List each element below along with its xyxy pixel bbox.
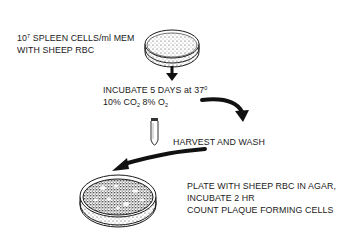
step-4-line-1: PLATE WITH SHEEP RBC IN AGAR, [187, 180, 336, 191]
agar-plate-icon [80, 175, 156, 227]
step-4-line-2: INCUBATE 2 HR [187, 192, 255, 203]
step-1-line-2: WITH SHEEP RBC [17, 44, 94, 55]
test-tube-icon [151, 118, 158, 145]
step-2-line-2: 10% CO2 8% O2 [103, 96, 168, 107]
step-1-line-1: 107 SPLEEN CELLS/ml MEM [17, 32, 135, 43]
step-4-line-3: COUNT PLAQUE FORMING CELLS [187, 204, 333, 215]
curved-arrow-left-icon [112, 149, 205, 171]
step-2-line-1: INCUBATE 5 DAYS at 370 [103, 84, 207, 95]
down-arrow-icon [166, 66, 178, 81]
petri-dish-icon [145, 30, 199, 67]
step-3-label: HARVEST AND WASH [173, 136, 265, 147]
curved-arrow-right-icon [202, 99, 249, 122]
